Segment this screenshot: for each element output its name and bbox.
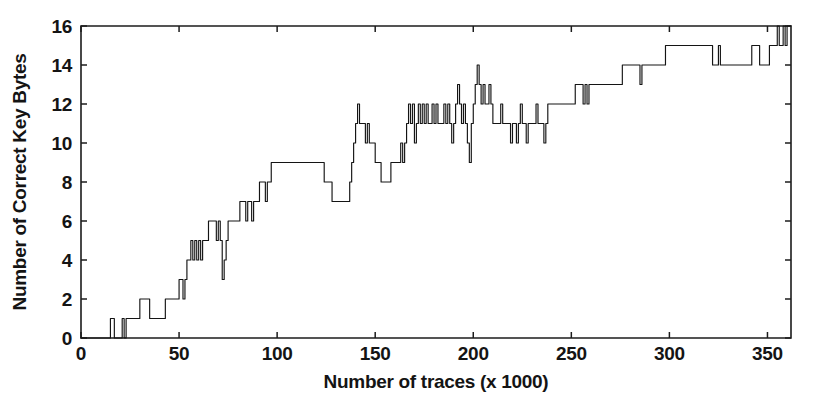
y-tick-label: 10: [51, 133, 72, 154]
x-tick-label: 100: [262, 343, 293, 364]
axis-ticks: [81, 26, 791, 338]
x-axis-tick-labels: 050100150200250300350: [76, 343, 783, 364]
data-series-line: [81, 26, 791, 338]
plot-frame: [81, 26, 791, 338]
x-tick-label: 50: [169, 343, 190, 364]
y-tick-label: 8: [62, 172, 72, 193]
y-tick-label: 12: [51, 94, 72, 115]
x-axis-title: Number of traces (x 1000): [324, 371, 549, 392]
plot-border: [81, 26, 791, 338]
figure-container: 0246810121416 050100150200250300350 Numb…: [0, 0, 827, 396]
y-axis-title: Number of Correct Key Bytes: [9, 54, 30, 311]
x-tick-label: 300: [654, 343, 685, 364]
x-tick-label: 0: [76, 343, 86, 364]
y-axis-tick-labels: 0246810121416: [51, 16, 72, 349]
y-tick-label: 2: [62, 289, 72, 310]
x-tick-label: 150: [360, 343, 391, 364]
y-tick-label: 14: [51, 55, 72, 76]
x-tick-label: 200: [458, 343, 489, 364]
x-tick-label: 350: [752, 343, 783, 364]
line-chart: 0246810121416 050100150200250300350 Numb…: [0, 0, 827, 396]
y-tick-label: 16: [51, 16, 72, 37]
x-tick-label: 250: [556, 343, 587, 364]
y-tick-label: 6: [62, 211, 72, 232]
y-tick-label: 0: [62, 328, 72, 349]
y-tick-label: 4: [62, 250, 73, 271]
